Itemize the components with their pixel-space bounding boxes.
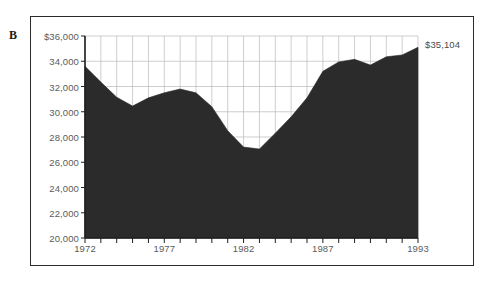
y-axis-tick-label: 34,000 (49, 56, 79, 67)
x-axis-tick-label: 1972 (74, 243, 96, 254)
x-axis-tick-label: 1993 (407, 243, 429, 254)
end-value-annotation: $35,104 (425, 39, 460, 50)
y-axis-tick-label: 24,000 (49, 182, 79, 193)
y-axis-tick-label: 30,000 (49, 106, 79, 117)
y-axis-tick-label: 22,000 (49, 207, 79, 218)
y-axis-tick-label: $36,000 (44, 31, 79, 42)
x-axis-tick-label: 1987 (312, 243, 334, 254)
y-axis-tick-label: 26,000 (49, 157, 79, 168)
chart-panel (30, 16, 474, 266)
y-axis-tick-label: 32,000 (49, 81, 79, 92)
panel-label: B (9, 28, 17, 43)
x-axis-tick-label: 1977 (154, 243, 176, 254)
x-axis-tick-label: 1982 (233, 243, 255, 254)
y-axis-labels: $36,00034,00032,00030,00028,00026,00024,… (30, 0, 79, 283)
y-axis-tick-label: 28,000 (49, 132, 79, 143)
y-axis-tick-label: 20,000 (49, 233, 79, 244)
